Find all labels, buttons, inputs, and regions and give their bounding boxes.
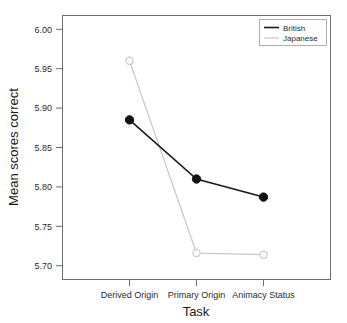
data-point-japanese-derived-origin	[126, 57, 133, 64]
chart-canvas: 5.70 5.75 5.80 5.85 5.90 5.95	[0, 0, 347, 323]
x-tick-label: Animacy Status	[232, 290, 295, 300]
series-japanese-line	[130, 61, 264, 255]
y-tick-label: 5.85	[34, 143, 52, 153]
y-tick-group: 6.00	[34, 25, 62, 35]
y-axis: 5.70 5.75 5.80 5.85 5.90 5.95	[34, 25, 62, 271]
data-point-british-primary-origin	[192, 175, 200, 183]
y-tick-group: 5.95	[34, 64, 62, 74]
x-tick-group: Animacy Status	[232, 280, 295, 301]
data-point-japanese-primary-origin	[193, 250, 200, 257]
series-british	[125, 116, 267, 202]
x-tick-group: Derived Origin	[101, 280, 159, 301]
y-tick-label: 5.70	[34, 261, 52, 271]
legend-label-japanese: Japanese	[283, 34, 318, 43]
legend-label-british: British	[283, 24, 305, 33]
y-tick-label: 5.75	[34, 222, 52, 232]
y-tick-group: 5.80	[34, 182, 62, 192]
y-tick-label: 5.95	[34, 64, 52, 74]
data-point-japanese-animacy-status	[260, 251, 267, 258]
x-tick-group: Primary Origin	[168, 280, 226, 301]
x-tick-label: Derived Origin	[101, 290, 159, 300]
y-tick-group: 5.75	[34, 222, 62, 232]
x-tick-label: Primary Origin	[168, 290, 226, 300]
y-tick-group: 5.70	[34, 261, 62, 271]
plot-frame	[63, 16, 331, 280]
interaction-plot-figure: 5.70 5.75 5.80 5.85 5.90 5.95	[0, 0, 347, 323]
data-point-british-animacy-status	[259, 193, 267, 201]
series-british-line	[130, 120, 264, 197]
y-tick-group: 5.90	[34, 103, 62, 113]
y-tick-label: 5.80	[34, 182, 52, 192]
y-axis-title: Mean scores correct	[6, 88, 21, 206]
y-tick-label: 5.90	[34, 103, 52, 113]
x-axis: Derived Origin Primary Origin Animacy St…	[101, 280, 296, 301]
data-point-british-derived-origin	[125, 116, 133, 124]
legend: British Japanese	[260, 20, 327, 46]
y-tick-group: 5.85	[34, 143, 62, 153]
x-axis-title: Task	[183, 304, 210, 319]
y-tick-label: 6.00	[34, 25, 52, 35]
series-japanese	[126, 57, 267, 258]
